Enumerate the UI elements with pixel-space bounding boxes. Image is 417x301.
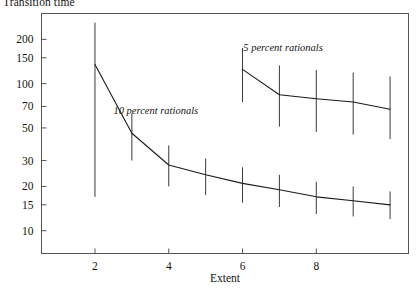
- chart-figure: Transition time 200150100705030201510 24…: [0, 0, 417, 301]
- y-tick-label: 150: [16, 52, 34, 64]
- x-tick-label: 8: [313, 260, 319, 272]
- x-tick-label: 2: [92, 260, 98, 272]
- y-axis-tick-labels: 200150100705030201510: [16, 33, 34, 236]
- x-axis-title: Extent: [210, 272, 241, 284]
- y-tick-label: 200: [16, 33, 34, 45]
- y-tick-label: 10: [22, 225, 34, 237]
- x-tick-label: 6: [240, 260, 246, 272]
- series-annotation-label: 10 percent rationals: [113, 105, 198, 116]
- y-tick-label: 30: [22, 155, 34, 167]
- y-tick-label: 15: [22, 199, 34, 211]
- y-tick-label: 70: [22, 100, 34, 112]
- y-tick-label: 100: [16, 78, 34, 90]
- y-tick-label: 20: [22, 180, 34, 192]
- series-annotation-label: 5 percent rationals: [243, 42, 323, 53]
- chart-plot-area: 200150100705030201510 2468 10 percent ra…: [0, 0, 417, 301]
- x-axis-tick-labels: 2468: [92, 260, 319, 272]
- x-tick-label: 4: [166, 260, 172, 272]
- y-tick-label: 50: [22, 122, 34, 134]
